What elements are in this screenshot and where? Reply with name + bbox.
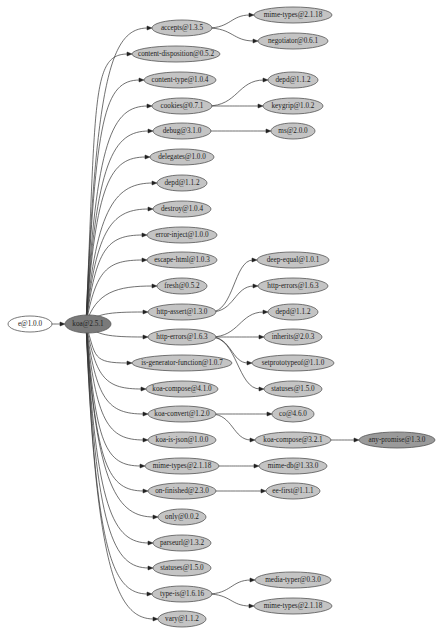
node-koa[interactable]: koa@2.5.1 xyxy=(65,315,111,333)
node-negotiator[interactable]: negotiator@0.6.1 xyxy=(258,33,328,49)
arrowhead-icon xyxy=(247,361,252,365)
node-only[interactable]: only@0.0.2 xyxy=(158,509,206,525)
arrowhead-icon xyxy=(249,13,254,17)
node-fresh[interactable]: fresh@0.5.2 xyxy=(157,278,207,294)
node-e[interactable]: e@1.0.0 xyxy=(8,316,52,332)
node-mime-types-b[interactable]: mime-types@2.1.18 xyxy=(254,7,332,23)
arrowhead-icon xyxy=(60,322,65,326)
node-content-type[interactable]: content-type@1.0.4 xyxy=(144,72,216,88)
node-accepts[interactable]: accepts@1.3.5 xyxy=(152,20,212,36)
node-label: depd@1.1.2 xyxy=(276,76,311,84)
node-label: debug@3.1.0 xyxy=(163,127,202,135)
arrowhead-icon xyxy=(143,489,148,493)
node-statuses-a[interactable]: statuses@1.5.0 xyxy=(153,560,211,576)
node-ms[interactable]: ms@2.0.0 xyxy=(271,123,315,139)
node-label: koa-compose@3.2.1 xyxy=(263,436,323,444)
node-is-generator-function[interactable]: is-generator-function@1.0.7 xyxy=(132,355,232,371)
node-label: any-promise@1.3.0 xyxy=(369,436,426,444)
edge-koa-to-only xyxy=(86,324,158,519)
node-label: http-assert@1.3.0 xyxy=(157,308,208,316)
node-label: negotiator@0.6.1 xyxy=(268,37,319,45)
node-koa-compose3[interactable]: koa-compose@3.2.1 xyxy=(255,432,331,448)
arrowhead-icon xyxy=(145,155,150,159)
node-cookies[interactable]: cookies@0.7.1 xyxy=(152,98,212,114)
dependency-graph: e@1.0.0koa@2.5.1accepts@1.3.5content-dis… xyxy=(0,0,437,639)
node-http-assert[interactable]: http-assert@1.3.0 xyxy=(148,304,216,320)
arrowhead-icon xyxy=(147,104,152,108)
edge-koa-to-depd xyxy=(86,181,157,324)
edge-http-assert-to-deep-equal xyxy=(211,258,257,312)
node-koa-convert[interactable]: koa-convert@1.2.0 xyxy=(148,406,216,422)
arrowhead-icon xyxy=(250,438,255,442)
arrowhead-icon xyxy=(148,566,153,570)
node-depd[interactable]: depd@1.1.2 xyxy=(157,175,207,191)
node-label: is-generator-function@1.0.7 xyxy=(141,359,223,367)
node-label: media-typer@0.3.0 xyxy=(265,576,321,584)
arrowhead-icon xyxy=(152,181,157,185)
node-label: koa-compose@4.1.0 xyxy=(152,385,212,393)
arrowhead-icon xyxy=(127,361,132,365)
edge-koa-to-escape-html xyxy=(86,258,147,324)
edge-mime-types-a-to-mime-db xyxy=(213,464,259,468)
arrowhead-icon xyxy=(143,310,148,314)
node-debug[interactable]: debug@3.1.0 xyxy=(153,123,211,139)
node-deep-equal[interactable]: deep-equal@1.0.1 xyxy=(257,252,329,268)
node-http-errors[interactable]: http-errors@1.6.3 xyxy=(148,329,216,345)
node-http-errors-b[interactable]: http-errors@1.6.3 xyxy=(258,278,328,294)
arrowhead-icon xyxy=(254,464,259,468)
node-label: mime-types@2.1.18 xyxy=(153,462,212,470)
node-vary[interactable]: vary@1.1.2 xyxy=(158,611,206,627)
node-destroy[interactable]: destroy@1.0.4 xyxy=(153,201,211,217)
arrowhead-icon xyxy=(143,412,148,416)
node-type-is[interactable]: type-is@1.6.16 xyxy=(152,586,212,602)
node-label: only@0.0.2 xyxy=(165,513,199,521)
node-keygrip[interactable]: keygrip@1.0.2 xyxy=(263,98,323,114)
node-media-typer[interactable]: media-typer@0.3.0 xyxy=(255,572,331,588)
node-ee-first[interactable]: ee-first@1.1.1 xyxy=(266,483,320,499)
arrowhead-icon xyxy=(143,438,148,442)
node-label: ms@2.0.0 xyxy=(278,127,308,135)
node-depd-b[interactable]: depd@1.1.2 xyxy=(268,72,318,88)
node-setprototypeof[interactable]: setprototypeof@1.1.0 xyxy=(252,355,334,371)
node-any-promise[interactable]: any-promise@1.3.0 xyxy=(359,432,435,448)
arrowhead-icon xyxy=(250,578,255,582)
node-label: destroy@1.0.4 xyxy=(161,205,204,213)
node-error-inject[interactable]: error-inject@1.0.0 xyxy=(147,227,217,243)
arrowhead-icon xyxy=(140,464,145,468)
arrowhead-icon xyxy=(153,617,158,621)
edge-accepts-to-mime-types-b xyxy=(208,13,255,28)
node-escape-html[interactable]: escape-html@1.0.3 xyxy=(147,252,217,268)
node-koa-compose4[interactable]: koa-compose@4.1.0 xyxy=(146,381,218,397)
node-koa-is-json[interactable]: koa-is-json@1.0.0 xyxy=(148,432,216,448)
arrowhead-icon xyxy=(139,78,144,82)
node-label: setprototypeof@1.1.0 xyxy=(262,359,325,367)
node-label: cookies@0.7.1 xyxy=(161,102,204,110)
arrowhead-icon xyxy=(354,438,359,442)
node-on-finished[interactable]: on-finished@2.3.0 xyxy=(148,483,216,499)
node-label: koa-convert@1.2.0 xyxy=(154,410,210,418)
edge-koa-to-koa-convert xyxy=(86,324,148,416)
edge-cookies-to-depd-b xyxy=(208,78,269,106)
node-label: keygrip@1.0.2 xyxy=(272,102,315,110)
node-depd-c[interactable]: depd@1.1.2 xyxy=(268,304,318,320)
edge-koa-to-destroy xyxy=(86,207,153,324)
node-delegates[interactable]: delegates@1.0.0 xyxy=(150,149,214,165)
node-label: parseurl@1.3.2 xyxy=(160,539,205,547)
edge-type-is-to-media-typer xyxy=(208,578,256,594)
node-mime-types-a[interactable]: mime-types@2.1.18 xyxy=(145,458,219,474)
node-mime-types-c[interactable]: mime-types@2.1.18 xyxy=(254,598,332,614)
arrowhead-icon xyxy=(258,104,263,108)
edge-debug-to-ms xyxy=(207,129,271,133)
node-statuses-b[interactable]: statuses@1.5.0 xyxy=(264,381,322,397)
node-label: accepts@1.3.5 xyxy=(161,24,204,32)
node-parseurl[interactable]: parseurl@1.3.2 xyxy=(153,535,211,551)
node-mime-db[interactable]: mime-db@1.33.0 xyxy=(259,458,327,474)
node-label: content-disposition@0.5.2 xyxy=(138,50,214,58)
node-label: error-inject@1.0.0 xyxy=(155,231,209,239)
node-label: mime-types@2.1.18 xyxy=(264,602,323,610)
node-inherits[interactable]: inherits@2.0.3 xyxy=(264,329,322,345)
node-label: http-errors@1.6.3 xyxy=(156,333,208,341)
edge-type-is-to-mime-types-c xyxy=(208,594,255,608)
node-content-disposition[interactable]: content-disposition@0.5.2 xyxy=(132,46,220,62)
node-co[interactable]: co@4.6.0 xyxy=(272,406,314,422)
